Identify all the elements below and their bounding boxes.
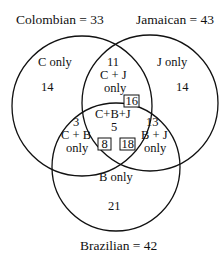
bj-total-value: 18	[122, 137, 135, 151]
colombian-title: Colombian = 33	[16, 12, 104, 27]
b-only-value: 21	[108, 199, 121, 213]
cb-only-value: 3	[73, 115, 79, 129]
bj-only-label-line1: B + J	[141, 128, 168, 142]
bj-only-value: 13	[146, 115, 159, 129]
cb-only-label-line2: only	[66, 141, 89, 155]
cj-only-value: 11	[107, 55, 119, 69]
brazilian-title: Brazilian = 42	[80, 238, 157, 253]
c-only-label: C only	[38, 55, 72, 69]
cj-only-label-line1: C + J	[100, 68, 127, 82]
cb-total-value: 8	[102, 137, 108, 151]
cbj-label: C+B+J	[95, 107, 131, 121]
jamaican-title: Jamaican = 43	[136, 12, 214, 27]
j-only-label: J only	[157, 55, 188, 69]
b-only-label: B only	[99, 170, 133, 184]
cj-only-label-line2: only	[104, 81, 127, 95]
c-only-value: 14	[41, 80, 54, 94]
bj-only-label-line2: only	[144, 141, 167, 155]
cj-total-value: 16	[126, 94, 139, 108]
j-only-value: 14	[176, 80, 189, 94]
cbj-value: 5	[111, 120, 117, 134]
venn-diagram: Colombian = 33 Jamaican = 43 Brazilian =…	[0, 0, 223, 260]
cb-only-label-line1: C + B	[61, 128, 91, 142]
